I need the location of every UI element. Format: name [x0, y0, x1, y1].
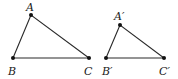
label-c-prime: C′ [159, 65, 170, 78]
label-c: C [84, 65, 93, 78]
vertex-b-prime-point [104, 56, 108, 60]
triangle-abc-outline [13, 15, 89, 58]
label-b: B [7, 65, 16, 78]
similar-triangles-diagram: A B C A′ B′ C′ [0, 0, 178, 79]
label-a-prime: A′ [113, 10, 125, 23]
vertex-b-point [11, 56, 15, 60]
label-a: A [25, 1, 34, 14]
vertex-c-prime-point [162, 56, 166, 60]
triangle-a-prime-b-prime-c-prime: A′ B′ C′ [101, 10, 170, 78]
vertex-a-prime-point [118, 23, 122, 27]
label-b-prime: B′ [101, 65, 113, 78]
triangle-abc: A B C [7, 1, 93, 78]
triangle-prime-outline [106, 25, 164, 58]
vertex-c-point [87, 56, 91, 60]
